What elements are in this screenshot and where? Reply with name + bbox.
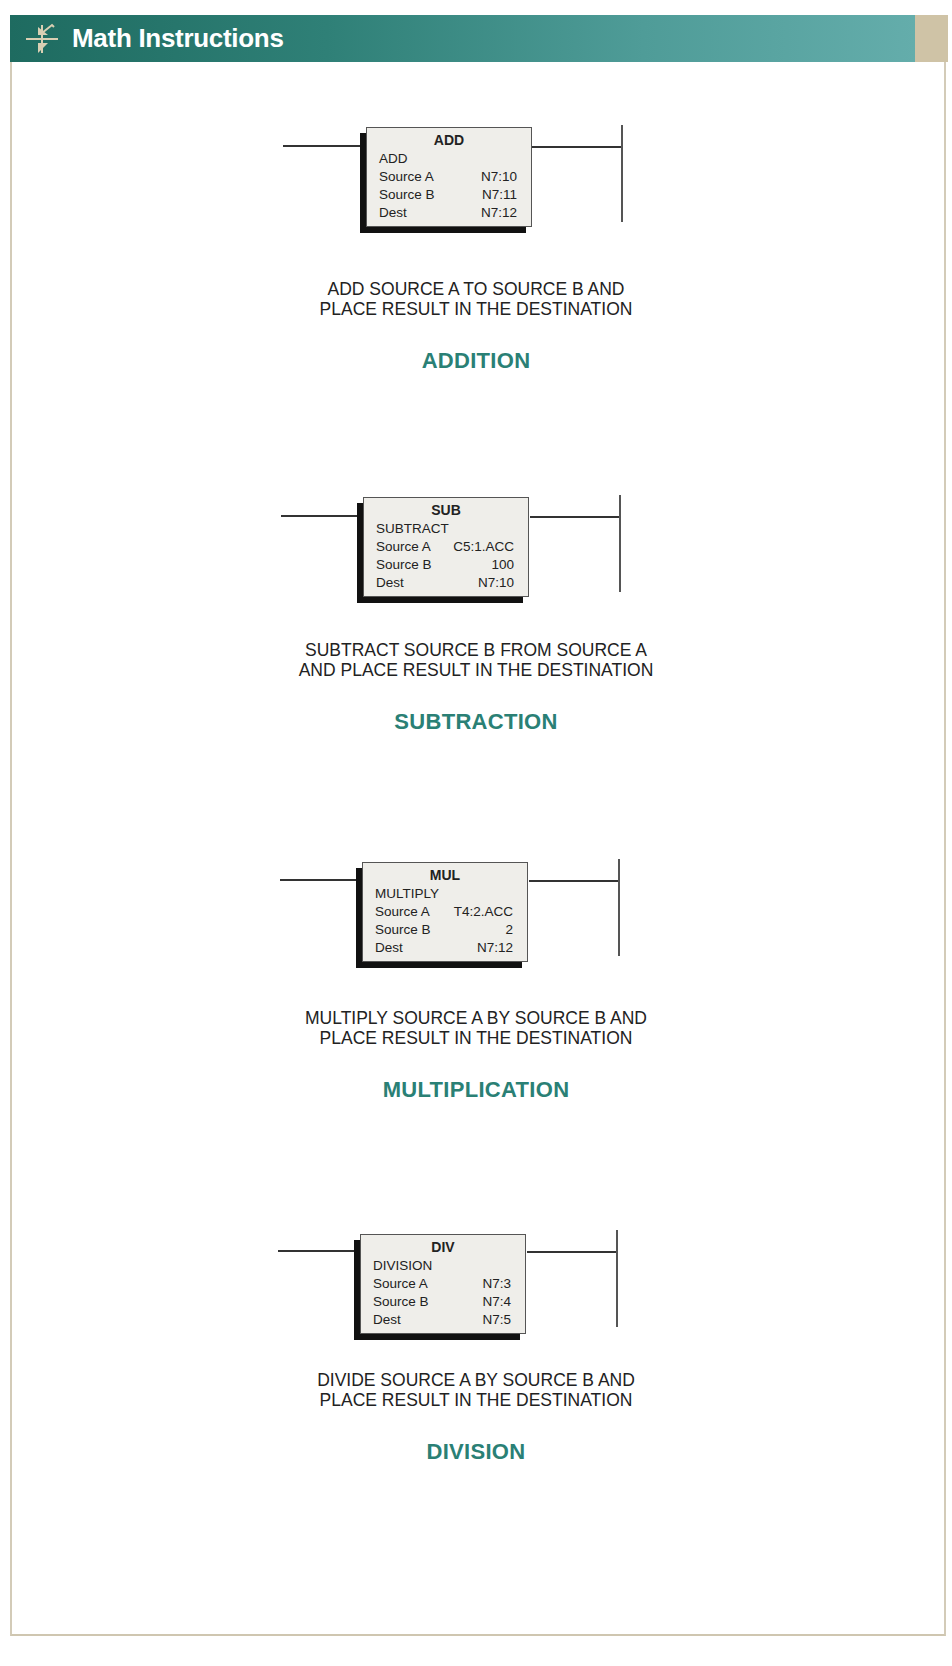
operand-row: Source B2: [375, 921, 513, 939]
instruction-mnemonic: MUL: [363, 867, 527, 883]
rung-line-left: [280, 879, 362, 881]
operand-row: Source AN7:3: [373, 1275, 511, 1293]
instruction-long-name-row: DIVISION: [373, 1257, 511, 1275]
description-line: MULTIPLY SOURCE A BY SOURCE B AND: [0, 1008, 952, 1028]
description-line: SUBTRACT SOURCE B FROM SOURCE A: [0, 640, 952, 660]
instruction-mnemonic: DIV: [361, 1239, 525, 1255]
rung-line-left: [281, 515, 363, 517]
operand-label: Dest: [373, 1311, 401, 1329]
operand-value: N7:5: [482, 1311, 511, 1329]
operand-label: Dest: [376, 574, 404, 592]
instruction-box: SUB SUBTRACT Source AC5:1.ACC Source B10…: [363, 497, 529, 597]
instruction-long-name-row: SUBTRACT: [376, 520, 514, 538]
instruction-long-name: DIVISION: [373, 1257, 432, 1275]
operand-row: Source B100: [376, 556, 514, 574]
operand-label: Source B: [375, 921, 431, 939]
operand-value: T4:2.ACC: [454, 903, 513, 921]
operand-row: DestN7:10: [376, 574, 514, 592]
power-rail: [616, 1230, 618, 1327]
instruction-long-name-row: MULTIPLY: [375, 885, 513, 903]
instruction-long-name: MULTIPLY: [375, 885, 439, 903]
instruction-box: MUL MULTIPLY Source AT4:2.ACC Source B2 …: [362, 862, 528, 962]
instruction-long-name: SUBTRACT: [376, 520, 449, 538]
operand-label: Source A: [373, 1275, 428, 1293]
description-line: AND PLACE RESULT IN THE DESTINATION: [0, 660, 952, 680]
description-line: PLACE RESULT IN THE DESTINATION: [0, 1028, 952, 1048]
instruction-description: MULTIPLY SOURCE A BY SOURCE B AND PLACE …: [0, 1008, 952, 1048]
operation-title: MULTIPLICATION: [0, 1077, 952, 1103]
operand-value: 100: [491, 556, 514, 574]
instruction-block-div: DIV DIVISION Source AN7:3 Source BN7:4 D…: [0, 0, 952, 360]
operand-row: DestN7:12: [375, 939, 513, 957]
instruction-description: SUBTRACT SOURCE B FROM SOURCE A AND PLAC…: [0, 640, 952, 680]
operation-title: DIVISION: [0, 1439, 952, 1465]
operand-value: N7:10: [478, 574, 514, 592]
description-line: DIVIDE SOURCE A BY SOURCE B AND: [0, 1370, 952, 1390]
operand-row: DestN7:5: [373, 1311, 511, 1329]
operand-value: N7:3: [482, 1275, 511, 1293]
operand-label: Source A: [376, 538, 431, 556]
operand-row: Source AT4:2.ACC: [375, 903, 513, 921]
operand-row: Source AC5:1.ACC: [376, 538, 514, 556]
operand-value: 2: [505, 921, 513, 939]
operation-title: SUBTRACTION: [0, 709, 952, 735]
power-rail: [619, 495, 621, 592]
operand-value: N7:12: [477, 939, 513, 957]
operand-row: Source BN7:4: [373, 1293, 511, 1311]
operand-label: Source B: [376, 556, 432, 574]
operand-label: Source A: [375, 903, 430, 921]
rung-line-right: [527, 1251, 617, 1253]
instruction-description: DIVIDE SOURCE A BY SOURCE B AND PLACE RE…: [0, 1370, 952, 1410]
rung-line-right: [529, 880, 619, 882]
operand-label: Dest: [375, 939, 403, 957]
rung-line-left: [278, 1250, 360, 1252]
instruction-mnemonic: SUB: [364, 502, 528, 518]
operand-value: N7:4: [482, 1293, 511, 1311]
power-rail: [618, 859, 620, 956]
instruction-box: DIV DIVISION Source AN7:3 Source BN7:4 D…: [360, 1234, 526, 1334]
rung-line-right: [530, 516, 620, 518]
operand-label: Source B: [373, 1293, 429, 1311]
operand-value: C5:1.ACC: [453, 538, 514, 556]
description-line: PLACE RESULT IN THE DESTINATION: [0, 1390, 952, 1410]
